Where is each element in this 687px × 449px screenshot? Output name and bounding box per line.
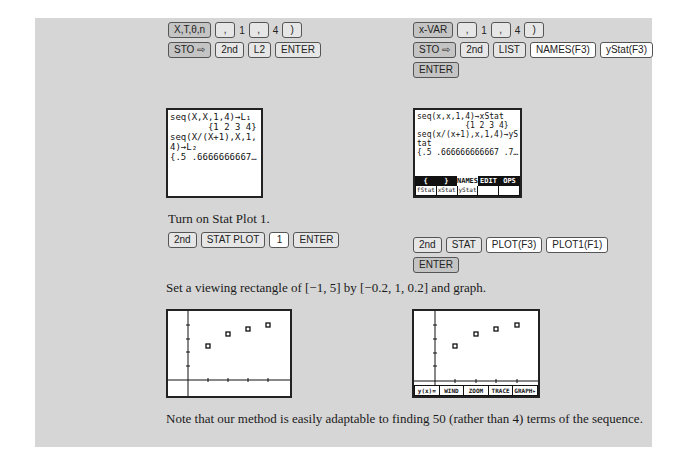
key-close-paren[interactable]: ) (524, 22, 544, 38)
digit-4: 4 (515, 25, 521, 36)
key-comma[interactable]: , (249, 22, 269, 38)
list-menu: { } NAMES EDIT OPS fStat xStat yStat (415, 176, 520, 196)
scatter-plot (168, 311, 290, 396)
note-text: Note that our method is easily adaptable… (166, 411, 643, 427)
screen-line: seq(X,X,1,4)→L₁ (168, 112, 261, 122)
menu-empty (478, 186, 498, 195)
key-comma[interactable]: , (457, 22, 477, 38)
key-plot1-f1[interactable]: PLOT1(F1) (546, 237, 608, 253)
key-enter[interactable]: ENTER (293, 232, 339, 248)
menu-edit[interactable]: EDIT (478, 176, 499, 186)
key-plot-f3[interactable]: PLOT(F3) (486, 237, 542, 253)
menu-zoom[interactable]: ZOOM (464, 386, 488, 395)
digit-4: 4 (273, 25, 279, 36)
screen-line: {.5 .6666666667… (168, 152, 261, 162)
key-2nd[interactable]: 2nd (413, 237, 442, 253)
digit-1: 1 (481, 25, 487, 36)
screen-line: {1 2 3 4} (415, 121, 520, 130)
menu-open-brace[interactable]: { (415, 176, 436, 186)
screen-line: 4)→L₂ (168, 142, 261, 152)
right-stat-keys-row1: 2nd STAT PLOT(F3) PLOT1(F1) (413, 237, 608, 253)
key-2nd[interactable]: 2nd (215, 42, 244, 58)
key-enter[interactable]: ENTER (275, 42, 321, 58)
menu-graph[interactable]: GRAPH▸ (513, 386, 537, 395)
menu-fstat[interactable]: fStat (416, 186, 436, 195)
screen-line: seq(X/(X+1),X,1, (168, 132, 261, 142)
key-names-f3[interactable]: NAMES(F3) (530, 42, 596, 58)
right-keys-row1: x-VAR , 1 , 4 ) (413, 22, 544, 38)
key-l2[interactable]: L2 (248, 42, 271, 58)
menu-wind[interactable]: WIND (440, 386, 464, 395)
menu-ops[interactable]: OPS (499, 176, 520, 186)
menu-xstat[interactable]: xStat (437, 186, 457, 195)
key-sto[interactable]: STO ⇨ (413, 42, 456, 58)
left-keys-row1: X,T,θ,n , 1 , 4 ) (168, 22, 302, 38)
right-graph-screen: y(x)= WIND ZOOM TRACE GRAPH▸ (412, 309, 540, 398)
key-xt-theta-n[interactable]: X,T,θ,n (168, 22, 211, 38)
key-1[interactable]: 1 (269, 232, 289, 248)
left-keys-row2: STO ⇨ 2nd L2 ENTER (168, 42, 321, 58)
key-close-paren[interactable]: ) (282, 22, 302, 38)
turn-on-instruction: Turn on Stat Plot 1. (168, 211, 270, 227)
graph-menu: y(x)= WIND ZOOM TRACE GRAPH▸ (414, 385, 538, 396)
digit-1: 1 (239, 25, 245, 36)
key-comma[interactable]: , (215, 22, 235, 38)
menu-empty (499, 186, 519, 195)
screen-line: seq(x,x,1,4)→xStat (415, 112, 520, 121)
key-x-var[interactable]: x-VAR (413, 22, 453, 38)
menu-close-brace[interactable]: } (436, 176, 457, 186)
menu-names[interactable]: NAMES (457, 176, 478, 186)
right-keys-row2: STO ⇨ 2nd LIST NAMES(F3) yStat(F3) (413, 42, 653, 58)
key-ystat-f3[interactable]: yStat(F3) (600, 42, 653, 58)
screen-line: tat (415, 139, 520, 148)
key-list[interactable]: LIST (493, 42, 526, 58)
screen-line: {1 2 3 4} (168, 122, 261, 132)
menu-ystat[interactable]: yStat (458, 186, 478, 195)
left-stat-keys: 2nd STAT PLOT 1 ENTER (168, 232, 339, 248)
key-comma[interactable]: , (491, 22, 511, 38)
viewing-rectangle-instruction: Set a viewing rectangle of [−1, 5] by [−… (166, 280, 486, 296)
key-stat-plot[interactable]: STAT PLOT (201, 232, 266, 248)
menu-y-of-x[interactable]: y(x)= (415, 386, 439, 395)
right-keys-row3: ENTER (413, 62, 459, 78)
left-graph-screen (166, 309, 292, 398)
key-2nd[interactable]: 2nd (460, 42, 489, 58)
right-stat-keys-row2: ENTER (413, 257, 459, 273)
scatter-plot (414, 311, 538, 396)
key-stat[interactable]: STAT (446, 237, 482, 253)
left-calculator-screen: seq(X,X,1,4)→L₁ {1 2 3 4} seq(X/(X+1),X,… (166, 108, 263, 198)
key-sto[interactable]: STO ⇨ (168, 42, 211, 58)
key-enter[interactable]: ENTER (413, 62, 459, 78)
key-2nd[interactable]: 2nd (168, 232, 197, 248)
menu-trace[interactable]: TRACE (489, 386, 513, 395)
key-enter[interactable]: ENTER (413, 257, 459, 273)
screen-line: seq(x/(x+1),x,1,4)→yS (415, 130, 520, 139)
right-calculator-screen: seq(x,x,1,4)→xStat {1 2 3 4} seq(x/(x+1)… (413, 108, 522, 198)
screen-line: {.5 .666666666667 .7… (415, 148, 520, 157)
content-panel (35, 18, 652, 447)
